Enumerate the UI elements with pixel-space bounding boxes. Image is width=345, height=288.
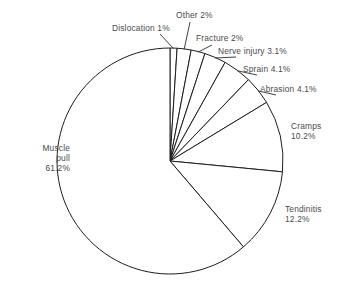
slice-label-line: Abrasion 4.1% <box>260 84 317 94</box>
slice-label-line: Other 2% <box>176 10 213 20</box>
slice-label-line: 61.2% <box>45 163 70 173</box>
pie-slices-group <box>57 48 283 274</box>
slice-label-muscle-pull: Musclepull61.2% <box>10 143 70 174</box>
slice-label-line: Cramps <box>291 121 321 131</box>
leader-line-dislocation <box>160 34 174 49</box>
slice-label-other: Other 2% <box>176 10 213 20</box>
slice-label-cramps: Cramps10.2% <box>291 121 321 141</box>
slice-label-line: Sprain 4.1% <box>243 64 290 74</box>
slice-label-fracture: Fracture 2% <box>196 33 243 43</box>
slice-label-dislocation: Dislocation 1% <box>112 23 170 33</box>
leader-line-nerve-injury <box>215 57 236 58</box>
slice-label-sprain: Sprain 4.1% <box>243 64 290 74</box>
slice-label-line: 10.2% <box>291 131 316 141</box>
slice-label-nerve-injury: Nerve injury 3.1% <box>218 46 287 56</box>
pie-chart: Dislocation 1% Other 2% Fracture 2% Nerv… <box>0 0 345 288</box>
slice-label-line: Nerve injury 3.1% <box>218 46 287 56</box>
slice-label-line: Fracture 2% <box>196 33 243 43</box>
slice-label-line: Muscle <box>42 143 70 153</box>
slice-label-tendinitis: Tendinitis12.2% <box>285 204 322 224</box>
slice-label-line: Dislocation 1% <box>112 23 170 33</box>
leader-line-other <box>184 22 190 49</box>
slice-label-line: Tendinitis <box>285 204 322 214</box>
slice-label-line: pull <box>56 153 70 163</box>
leader-line-fracture <box>198 45 212 52</box>
slice-label-line: 12.2% <box>285 214 310 224</box>
slice-label-abrasion: Abrasion 4.1% <box>260 84 317 94</box>
